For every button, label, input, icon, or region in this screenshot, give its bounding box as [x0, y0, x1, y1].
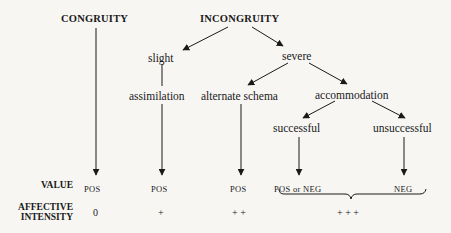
edge-accommodation-unsuccessful [372, 101, 405, 118]
node-severe: severe [282, 50, 311, 62]
node-successful: successful [273, 122, 320, 134]
edge-incongruity-slight [183, 27, 228, 50]
row-label-value: VALUE [30, 180, 73, 190]
intensity-assimilation: + [158, 207, 164, 219]
value-alternate-schema: POS [230, 183, 247, 195]
value-unsuccessful: NEG [394, 183, 412, 195]
node-assimilation: assimilation [129, 90, 185, 102]
edge-severe-accommodation [309, 63, 347, 84]
edge-severe-alternate [248, 63, 288, 85]
node-congruity: CONGRUITY [61, 13, 128, 25]
edge-accommodation-successful [303, 101, 335, 118]
diagram-edges [0, 0, 451, 233]
value-assimilation: POS [151, 183, 168, 195]
intensity-alternate-schema: + + [232, 207, 246, 219]
node-accommodation: accommodation [315, 89, 388, 101]
value-congruity: POS [84, 183, 101, 195]
intensity-congruity: 0 [93, 207, 98, 219]
node-incongruity: INCONGRUITY [200, 13, 279, 25]
intensity-accommodation: + + + [337, 207, 359, 219]
row-label-intensity: INTENSITY [10, 212, 73, 222]
node-slight: slight [148, 52, 174, 64]
edge-incongruity-severe [252, 27, 283, 46]
node-alternate-schema: alternate schema [201, 90, 278, 102]
node-unsuccessful: unsuccessful [373, 122, 432, 134]
row-label-affective: AFFECTIVE [10, 202, 73, 212]
value-successful: POS or NEG [274, 183, 321, 195]
